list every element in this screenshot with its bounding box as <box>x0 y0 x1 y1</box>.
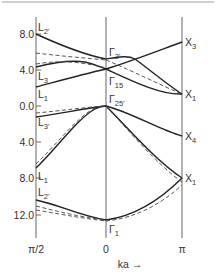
point-label-Gamma25p: Γ25' <box>109 93 125 108</box>
band-curve-dashed <box>106 185 182 221</box>
y-tick-label: 8.0 <box>19 172 34 184</box>
x-tick-label: π <box>178 243 185 255</box>
point-label-L1-upper: L1 <box>38 88 48 103</box>
point-label-L3: L3 <box>38 70 48 85</box>
point-label-X1-lower: X1 <box>185 172 196 187</box>
band-curve-dashed <box>36 210 106 221</box>
band-curve <box>36 200 106 220</box>
band-curve <box>36 106 106 117</box>
point-label-L1-lower: L1 <box>38 170 48 185</box>
band-curve <box>36 34 106 59</box>
point-label-X4: X4 <box>185 130 196 145</box>
band-curve <box>106 106 182 178</box>
band-curve <box>106 178 182 220</box>
y-tick-label: 8.0 <box>19 28 34 40</box>
point-label-X1-upper: X1 <box>185 88 196 103</box>
y-tick-label: 4.0 <box>19 64 34 76</box>
x-axis-label: ka → <box>118 258 143 270</box>
y-tick-label: 0.0 <box>19 100 34 112</box>
band-curve <box>106 106 182 136</box>
point-label-X3: X3 <box>185 36 196 51</box>
x-tick-label: 0 <box>103 243 109 255</box>
band-structure-chart: 8.0 4.0 0.0 4.0 8.0 12.0 π/2 0 π ka → L2… <box>0 0 216 280</box>
x-tick-label: π/2 <box>28 243 44 255</box>
point-label-L2p-bottom: L2' <box>38 186 50 201</box>
y-tick-label: 12.0 <box>14 209 35 221</box>
y-tick-label: 4.0 <box>19 136 34 148</box>
band-curve-dashed <box>36 106 106 164</box>
point-label-L3p: L3' <box>38 116 50 131</box>
point-label-Gamma15: Γ15 <box>109 75 123 90</box>
point-label-Gamma1: Γ1 <box>109 223 119 238</box>
